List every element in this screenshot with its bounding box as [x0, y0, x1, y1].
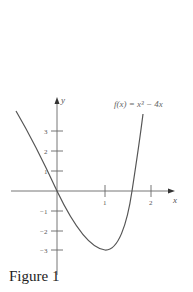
y-tick-label-neg3: −3	[40, 247, 48, 255]
function-label: f(x) = x³ − 4x	[114, 99, 163, 109]
x-tick-label-2: 2	[149, 199, 153, 207]
x-tick-label-1: 1	[103, 199, 107, 207]
y-tick-label-neg2: −2	[40, 228, 48, 236]
y-tick-label-3: 3	[44, 128, 48, 136]
function-curve	[16, 111, 143, 250]
x-axis-label: x	[172, 195, 177, 205]
function-graph: x y 1 2 3 2 1 −1 −2 −3 f(x) = x³ − 4x	[0, 0, 193, 292]
y-axis-label: y	[60, 95, 65, 105]
x-axis-arrow-icon	[168, 189, 175, 194]
figure-caption: Figure 1	[9, 268, 59, 285]
y-axis-arrow-icon	[55, 97, 60, 104]
y-tick-label-neg1: −1	[40, 208, 48, 216]
y-tick-label-2: 2	[44, 148, 48, 156]
